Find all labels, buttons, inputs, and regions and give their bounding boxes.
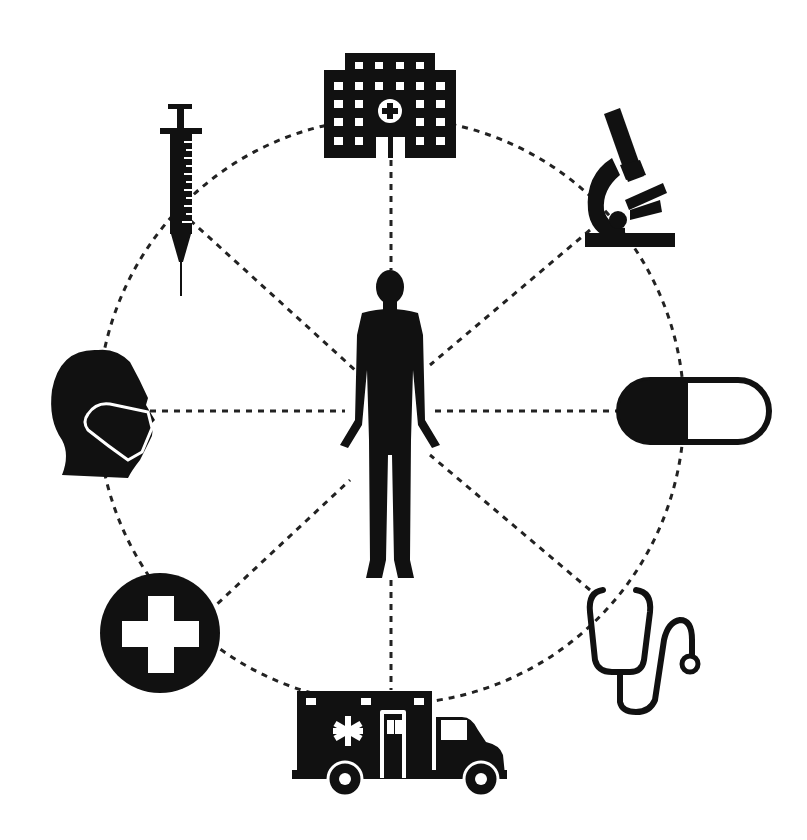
pill-capsule-icon [619,380,769,442]
human-body-icon [340,270,440,578]
ambulance-icon [292,691,507,796]
microscope-icon [585,108,675,247]
healthcare-diagram: Healthcare services around a person [0,0,807,840]
first-aid-cross-icon [100,573,220,693]
face-mask-head-icon [51,350,155,478]
hospital-icon [324,53,456,158]
syringe-icon [160,104,202,296]
